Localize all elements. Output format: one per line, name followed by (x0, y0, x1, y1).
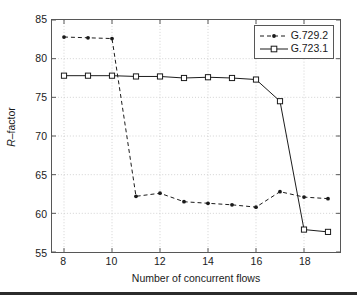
legend-entry-g7231: G.723.1 (259, 42, 328, 55)
data-point-marker (302, 195, 306, 199)
data-point-marker (157, 74, 162, 79)
data-point-marker (109, 73, 114, 78)
data-point-marker (325, 229, 330, 234)
data-point-marker (229, 75, 234, 80)
y-axis-tick-labels: 55606570758085 (17, 19, 47, 253)
data-point-marker (181, 75, 186, 80)
data-point-marker (301, 227, 306, 232)
y-tick-label: 80 (35, 53, 47, 64)
bottom-rule-divider (0, 292, 357, 295)
series-line-g7292 (64, 37, 328, 207)
figure-canvas: 55606570758085 G.729.2 G.723.1 810121416… (0, 0, 357, 301)
data-point-marker (253, 77, 258, 82)
x-tick-label: 10 (106, 256, 118, 267)
data-point-marker (158, 191, 162, 195)
data-point-marker (110, 37, 114, 41)
x-tick-label: 18 (299, 256, 311, 267)
plot-area: G.729.2 G.723.1 (51, 19, 341, 253)
data-point-marker (278, 190, 282, 194)
chart-legend[interactable]: G.729.2 G.723.1 (254, 25, 334, 59)
y-tick-label: 65 (35, 170, 47, 181)
y-tick-label: 70 (35, 131, 47, 142)
legend-entry-g7292: G.729.2 (259, 29, 328, 42)
legend-label-g7292: G.729.2 (291, 30, 328, 41)
data-point-marker (86, 36, 90, 40)
data-point-marker (206, 201, 210, 205)
x-axis-tick-labels: 81012141618 (51, 256, 341, 270)
legend-sample-solid-square (259, 43, 289, 55)
data-point-marker (326, 197, 330, 201)
y-tick-label: 85 (35, 14, 47, 25)
data-point-marker (230, 203, 234, 207)
data-point-marker (85, 73, 90, 78)
y-axis-title: R–factor (5, 87, 17, 167)
data-point-marker (205, 75, 210, 80)
y-tick-label: 75 (35, 92, 47, 103)
legend-sample-dashed-dot (259, 30, 289, 42)
data-point-marker (61, 73, 66, 78)
data-point-marker (134, 194, 138, 198)
data-point-marker (182, 200, 186, 204)
y-tick-label: 55 (35, 248, 47, 259)
series-line-g7231 (64, 76, 328, 232)
data-point-marker (277, 99, 282, 104)
data-point-marker (254, 205, 258, 209)
legend-label-g7231: G.723.1 (291, 43, 328, 54)
x-tick-label: 8 (60, 256, 66, 267)
x-tick-label: 14 (202, 256, 214, 267)
data-point-marker (133, 74, 138, 79)
x-axis-title: Number of concurrent flows (51, 272, 341, 284)
y-tick-label: 60 (35, 209, 47, 220)
x-tick-label: 12 (154, 256, 166, 267)
data-point-marker (62, 35, 66, 39)
x-tick-label: 16 (251, 256, 263, 267)
